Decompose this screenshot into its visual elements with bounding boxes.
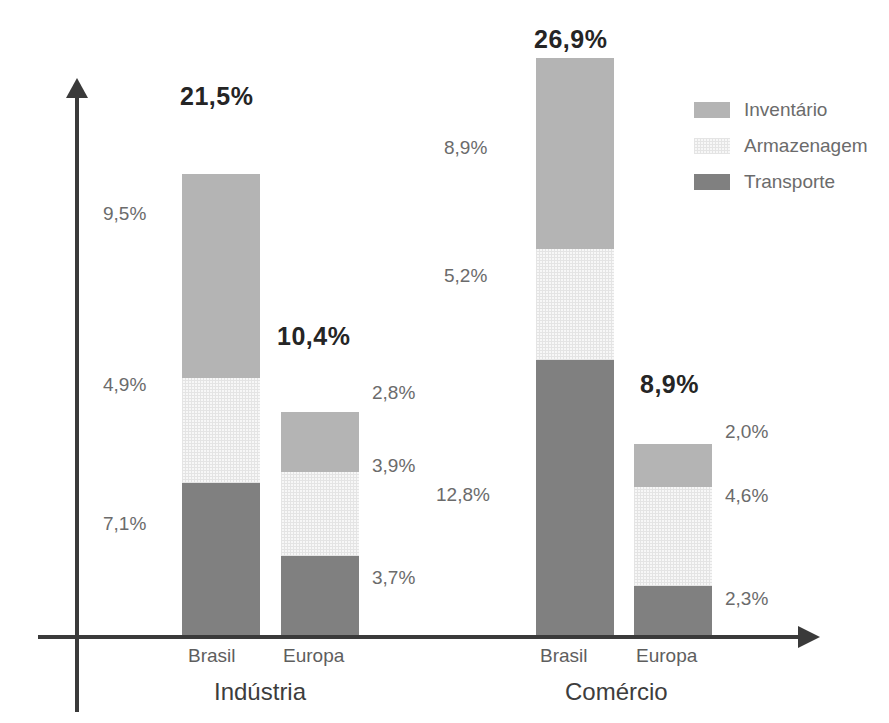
segment-value-label: 7,1% bbox=[103, 513, 146, 535]
segment-value-label: 5,2% bbox=[444, 265, 487, 287]
legend-item-label: Transporte bbox=[744, 171, 835, 193]
bar-segment-inventario[interactable] bbox=[281, 412, 359, 472]
bar-segment-inventario[interactable] bbox=[182, 174, 260, 378]
segment-value-label: 4,9% bbox=[103, 374, 146, 396]
segment-value-label: 8,9% bbox=[444, 137, 487, 159]
segment-value-label: 4,6% bbox=[725, 485, 768, 507]
segment-value-label: 3,7% bbox=[372, 567, 415, 589]
legend-item-transporte[interactable]: Transporte bbox=[694, 164, 868, 200]
group-label: Comércio bbox=[565, 678, 668, 706]
bar-segment-armazenagem[interactable] bbox=[536, 249, 614, 360]
segment-value-label: 2,3% bbox=[725, 588, 768, 610]
legend-item-label: Armazenagem bbox=[744, 135, 868, 157]
bar-segment-transporte[interactable] bbox=[634, 586, 712, 635]
table-row[interactable] bbox=[536, 58, 614, 635]
x-tick-label: Europa bbox=[283, 645, 344, 667]
legend: Inventário Armazenagem Transporte bbox=[694, 92, 868, 200]
table-row[interactable] bbox=[182, 174, 260, 635]
y-axis-line bbox=[75, 92, 79, 712]
bar-segment-inventario[interactable] bbox=[536, 58, 614, 249]
legend-swatch-icon bbox=[694, 174, 730, 190]
x-tick-label: Brasil bbox=[540, 645, 588, 667]
bar-total-label: 10,4% bbox=[277, 322, 350, 351]
group-label: Indústria bbox=[214, 678, 306, 706]
legend-item-label: Inventário bbox=[744, 99, 827, 121]
bar-total-label: 26,9% bbox=[534, 25, 607, 54]
bar-segment-armazenagem[interactable] bbox=[182, 378, 260, 483]
legend-item-armazenagem[interactable]: Armazenagem bbox=[694, 128, 868, 164]
x-tick-label: Europa bbox=[636, 645, 697, 667]
legend-item-inventario[interactable]: Inventário bbox=[694, 92, 868, 128]
bar-segment-transporte[interactable] bbox=[182, 483, 260, 635]
bar-segment-transporte[interactable] bbox=[536, 360, 614, 635]
bar-segment-armazenagem[interactable] bbox=[281, 472, 359, 556]
chart-canvas: 21,5% 9,5% 4,9% 7,1% Brasil 10,4% 2,8% 3… bbox=[0, 0, 889, 723]
bar-total-label: 21,5% bbox=[180, 82, 253, 111]
x-axis-arrow-icon bbox=[798, 626, 820, 648]
bar-segment-inventario[interactable] bbox=[634, 444, 712, 487]
table-row[interactable] bbox=[634, 444, 712, 635]
legend-swatch-icon bbox=[694, 102, 730, 118]
segment-value-label: 2,8% bbox=[372, 382, 415, 404]
bar-segment-transporte[interactable] bbox=[281, 556, 359, 635]
segment-value-label: 2,0% bbox=[725, 421, 768, 443]
table-row[interactable] bbox=[281, 412, 359, 635]
x-axis-line bbox=[38, 635, 800, 639]
segment-value-label: 3,9% bbox=[372, 455, 415, 477]
segment-value-label: 9,5% bbox=[103, 203, 146, 225]
legend-swatch-icon bbox=[694, 138, 730, 154]
bar-segment-armazenagem[interactable] bbox=[634, 487, 712, 586]
x-tick-label: Brasil bbox=[188, 645, 236, 667]
segment-value-label: 12,8% bbox=[436, 484, 490, 506]
bar-total-label: 8,9% bbox=[640, 370, 699, 399]
y-axis-arrow-icon bbox=[66, 78, 88, 98]
